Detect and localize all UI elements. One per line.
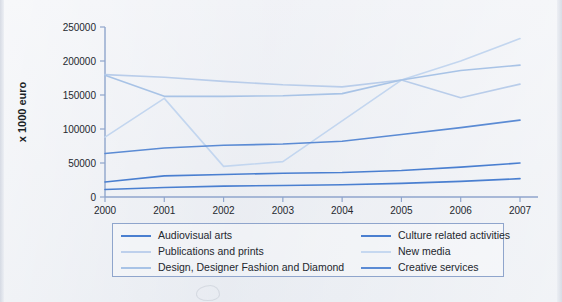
legend-swatch-culture-related-activities [361,235,391,237]
legend-item-new-media[interactable]: New media [361,244,510,259]
y-tick-label: 0 [90,192,96,203]
x-tick-label: 2003 [272,205,295,216]
y-tick-label: 250000 [63,22,97,33]
legend-item-audiovisual-arts[interactable]: Audiovisual arts [121,228,344,243]
legend-item-design-designer-fashion-and-diamond[interactable]: Design, Designer Fashion and Diamond [121,260,344,275]
x-tick-label: 2001 [153,205,176,216]
x-tick-label: 2002 [212,205,235,216]
series-lines [105,39,520,190]
legend-swatch-creative-services [361,267,391,269]
legend-item-publications-and-prints[interactable]: Publications and prints [121,244,344,259]
x-axis: 20002001200220032004200520062007 [94,197,538,216]
legend-label-new-media: New media [398,245,451,258]
legend-swatch-publications-and-prints [121,251,151,253]
x-tick-label: 2005 [390,205,413,216]
y-tick-label: 50000 [68,158,96,169]
legend-column-left: Audiovisual arts Publications and prints… [121,228,344,276]
legend-column-right: Culture related activities New media Cre… [361,228,510,276]
legend-swatch-audiovisual-arts [121,235,151,237]
y-tick-label: 150000 [63,90,97,101]
y-tick-label: 100000 [63,124,97,135]
legend-label-design-designer-fashion-and-diamond: Design, Designer Fashion and Diamond [158,261,344,274]
legend-swatch-design-designer-fashion-and-diamond [121,267,151,269]
legend-label-culture-related-activities: Culture related activities [398,229,510,242]
series-line [105,65,520,96]
y-axis-title: x 1000 euro [16,81,28,142]
x-tick-label: 2007 [509,205,532,216]
x-tick-label: 2006 [450,205,473,216]
y-tick-label: 200000 [63,56,97,67]
legend-label-publications-and-prints: Publications and prints [158,245,264,258]
series-line [105,163,520,182]
legend-swatch-new-media [361,251,391,253]
series-line [105,120,520,153]
x-tick-label: 2004 [331,205,354,216]
legend-item-culture-related-activities[interactable]: Culture related activities [361,228,510,243]
scan-artifact [196,285,220,301]
chart-legend: Audiovisual arts Publications and prints… [112,223,504,277]
legend-label-creative-services: Creative services [398,261,479,274]
legend-label-audiovisual-arts: Audiovisual arts [158,229,232,242]
y-axis: 050000100000150000200000250000 [63,22,105,203]
series-line [105,179,520,190]
legend-item-creative-services[interactable]: Creative services [361,260,510,275]
x-tick-label: 2000 [94,205,117,216]
